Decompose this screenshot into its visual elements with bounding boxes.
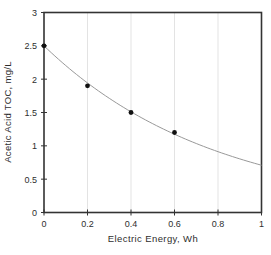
chart-plot-area: 00.511.522.5300.20.40.60.81 xyxy=(0,0,271,255)
plot-border xyxy=(44,13,262,213)
y-axis-title: Acetic Acid TOC, mg/L xyxy=(2,32,16,192)
x-tick-label: 0.2 xyxy=(81,219,94,229)
data-point xyxy=(42,43,47,48)
y-tick-label: 2.5 xyxy=(24,41,37,51)
data-point xyxy=(172,130,177,135)
x-tick-label: 1 xyxy=(259,219,264,229)
y-tick-label: 1 xyxy=(32,141,37,151)
x-tick-label: 0.6 xyxy=(168,219,181,229)
x-tick-label: 0.8 xyxy=(212,219,225,229)
y-tick-label: 1.5 xyxy=(24,108,37,118)
y-tick-label: 3 xyxy=(32,8,37,18)
y-tick-label: 0.5 xyxy=(24,175,37,185)
chart-figure: 00.511.522.5300.20.40.60.81 Electric Ene… xyxy=(0,0,271,255)
data-point xyxy=(85,83,90,88)
y-tick-label: 2 xyxy=(32,75,37,85)
x-tick-label: 0 xyxy=(41,219,46,229)
x-tick-label: 0.4 xyxy=(125,219,138,229)
x-axis-title: Electric Energy, Wh xyxy=(44,233,262,244)
trend-curve xyxy=(44,46,262,165)
data-point xyxy=(129,110,134,115)
y-tick-label: 0 xyxy=(32,208,37,218)
